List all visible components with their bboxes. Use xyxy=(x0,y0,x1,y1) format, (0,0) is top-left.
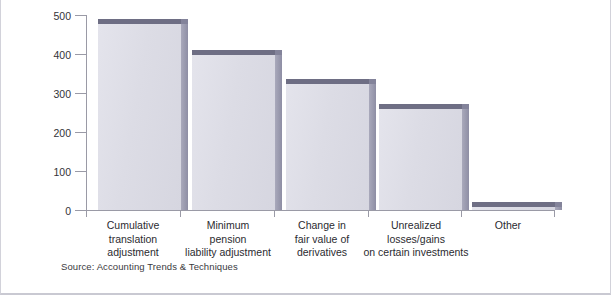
x-category-label-cumulative-translation-adjustment: Cumulative translation adjustment xyxy=(83,219,183,260)
bar-front-face xyxy=(286,84,369,210)
y-tick-mark-200 xyxy=(75,132,86,133)
bar-minimum-pension-liability-adjustment[interactable] xyxy=(192,50,282,210)
y-tick-mark-400 xyxy=(75,54,86,55)
y-tick-label-300: 300 xyxy=(29,88,71,100)
bar-front-face xyxy=(472,207,555,210)
bar-chart-plot-area: 500 400 300 200 100 0 xyxy=(1,0,611,295)
x-category-line: on certain investments xyxy=(362,246,470,260)
x-tick-mark-1 xyxy=(180,210,181,217)
y-tick-mark-100 xyxy=(75,171,86,172)
x-tick-mark-3 xyxy=(368,210,369,217)
bar-change-in-fair-value-of-derivatives[interactable] xyxy=(286,79,376,210)
x-tick-mark-0 xyxy=(86,210,87,217)
x-tick-mark-5 xyxy=(554,210,555,217)
chart-figure: 500 400 300 200 100 0 xyxy=(0,0,611,295)
x-category-line: Other xyxy=(458,219,558,233)
x-category-label-change-in-fair-value-of-derivatives: Change in fair value of derivatives xyxy=(272,219,372,260)
x-category-label-other: Other xyxy=(458,219,558,233)
x-category-line: liability adjustment xyxy=(178,246,278,260)
x-category-line: Unrealized xyxy=(362,219,470,233)
x-category-line: translation adjustment xyxy=(83,233,183,260)
x-category-line: fair value of xyxy=(272,233,372,247)
y-tick-mark-300 xyxy=(75,93,86,94)
y-tick-label-500: 500 xyxy=(29,10,71,22)
x-axis-line xyxy=(86,210,555,211)
bar-side-face xyxy=(555,207,562,210)
x-category-line: pension xyxy=(178,233,278,247)
y-tick-mark-0 xyxy=(75,210,86,211)
bar-front-face xyxy=(192,55,275,210)
bar-side-face xyxy=(462,109,469,210)
bar-front-face xyxy=(98,24,181,210)
y-tick-mark-500 xyxy=(75,15,86,16)
x-category-label-unrealized-losses-gains-on-certain-investments: Unrealized losses/gains on certain inves… xyxy=(362,219,470,260)
x-tick-mark-2 xyxy=(274,210,275,217)
source-note: Source: Accounting Trends & Techniques xyxy=(61,261,238,272)
bar-side-face xyxy=(275,55,282,210)
x-category-line: Change in xyxy=(272,219,372,233)
bar-side-face xyxy=(181,24,188,210)
x-category-line: derivatives xyxy=(272,246,372,260)
x-category-line: Cumulative xyxy=(83,219,183,233)
y-tick-label-200: 200 xyxy=(29,127,71,139)
bar-front-face xyxy=(379,109,462,210)
x-category-line: losses/gains xyxy=(362,233,470,247)
bar-unrealized-losses-gains-on-certain-investments[interactable] xyxy=(379,104,469,210)
y-tick-label-400: 400 xyxy=(29,49,71,61)
x-category-label-minimum-pension-liability-adjustment: Minimum pension liability adjustment xyxy=(178,219,278,260)
y-axis-line xyxy=(86,15,87,211)
y-tick-label-0: 0 xyxy=(29,205,71,217)
y-tick-label-100: 100 xyxy=(29,166,71,178)
bar-side-face xyxy=(369,84,376,210)
x-tick-mark-4 xyxy=(461,210,462,217)
bar-cumulative-translation-adjustment[interactable] xyxy=(98,19,188,210)
x-category-line: Minimum xyxy=(178,219,278,233)
bar-other[interactable] xyxy=(472,202,562,210)
